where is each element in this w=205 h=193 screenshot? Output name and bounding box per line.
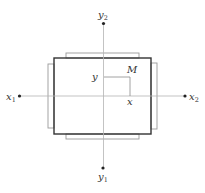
x2-label: x2 bbox=[189, 91, 199, 104]
y-projection-label: y bbox=[91, 71, 98, 82]
top-tab bbox=[66, 53, 139, 58]
x1-point-icon bbox=[18, 94, 21, 97]
x1-label: x1 bbox=[6, 91, 16, 104]
point-m-label: M bbox=[126, 64, 138, 75]
y2-label: y2 bbox=[97, 9, 108, 22]
x-projection-label: x bbox=[127, 96, 133, 107]
x2-point-icon bbox=[183, 94, 186, 97]
point-m-guides bbox=[104, 77, 130, 96]
coordinate-diagram: x1 x2 y2 y1 M y x bbox=[0, 0, 205, 193]
y2-point-icon bbox=[102, 22, 105, 25]
y1-point-icon bbox=[101, 166, 104, 169]
bottom-tab bbox=[66, 134, 139, 139]
y1-label: y1 bbox=[97, 171, 108, 184]
